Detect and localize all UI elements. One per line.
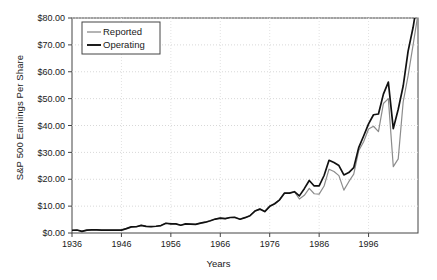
y-tick-label: $0.00	[42, 228, 65, 238]
x-tick-label: 1996	[359, 239, 379, 249]
y-tick-label: $20.00	[37, 174, 65, 184]
x-tick-label: 1986	[309, 239, 329, 249]
y-tick-label: $10.00	[37, 201, 65, 211]
x-axis-title: Years	[0, 258, 437, 269]
line-chart: $0.00$10.00$20.00$30.00$40.00$50.00$60.0…	[0, 0, 437, 280]
x-axis-ticks: 1936194619561966197619861996	[62, 233, 379, 249]
y-tick-label: $70.00	[37, 40, 65, 50]
x-tick-label: 1946	[111, 239, 131, 249]
x-tick-label: 1936	[62, 239, 82, 249]
y-tick-label: $30.00	[37, 148, 65, 158]
y-tick-label: $40.00	[37, 121, 65, 131]
chart-legend: ReportedOperating	[82, 22, 160, 54]
y-tick-label: $80.00	[37, 13, 65, 23]
y-axis-title: S&P 500 Earnings Per Share	[14, 3, 25, 233]
legend-label-operating: Operating	[103, 39, 145, 50]
y-tick-label: $60.00	[37, 67, 65, 77]
x-tick-label: 1976	[260, 239, 280, 249]
y-tick-label: $50.00	[37, 94, 65, 104]
y-axis-ticks: $0.00$10.00$20.00$30.00$40.00$50.00$60.0…	[37, 13, 72, 238]
legend-label-reported: Reported	[103, 26, 142, 37]
x-tick-label: 1956	[161, 239, 181, 249]
x-tick-label: 1966	[210, 239, 230, 249]
chart-container: $0.00$10.00$20.00$30.00$40.00$50.00$60.0…	[0, 0, 437, 280]
